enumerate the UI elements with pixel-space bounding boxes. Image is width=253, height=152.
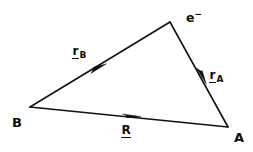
vector-triangle-figure: e− B A rB rA R [0, 0, 253, 152]
vector-subscript-r-sub-b: B [79, 50, 86, 60]
edge-b-to-electron [30, 22, 170, 107]
vector-subscript-r-sub-a: A [216, 74, 223, 84]
vertex-label-a: A [234, 131, 244, 144]
vector-label-r-capital: R [121, 124, 131, 138]
arrowhead-r-sub-a [196, 68, 206, 84]
electron-charge-sign: − [194, 9, 202, 19]
vector-symbol-r-sub-a: r [209, 70, 216, 83]
vertex-label-b: B [12, 116, 22, 129]
vector-symbol-r-sub-b: r [72, 46, 79, 59]
vector-symbol-r-capital: R [121, 125, 131, 138]
vector-label-r-sub-a: rA [209, 69, 223, 84]
vector-label-r-sub-b: rB [72, 45, 86, 60]
electron-vertex-label: e− [186, 10, 202, 25]
